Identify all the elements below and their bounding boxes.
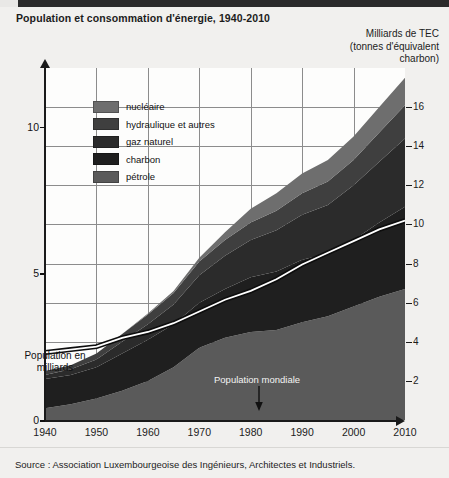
legend-item-label: charbon xyxy=(126,154,160,165)
legend-swatch xyxy=(93,171,119,183)
annotation-arrow-icon xyxy=(253,386,267,412)
x-axis-tick-label: 1990 xyxy=(282,426,322,438)
left-axis-tick-mark xyxy=(40,420,45,422)
right-axis-tick-mark xyxy=(406,224,412,225)
left-axis-tick-label: 0 xyxy=(17,414,39,426)
left-axis-tick-mark xyxy=(40,273,45,275)
legend-item-label: nucléaire xyxy=(126,101,165,112)
x-axis-tick-label: 1980 xyxy=(231,426,271,438)
left-axis-title-line2: milliards xyxy=(12,362,98,374)
chart: 246810121416 0510 1940195019601970198019… xyxy=(0,0,449,478)
right-axis-tick-mark xyxy=(406,185,412,186)
right-axis-tick-mark xyxy=(406,264,412,265)
legend-item-label: hydraulique et autres xyxy=(126,119,215,130)
x-axis-arrow-icon xyxy=(396,416,405,426)
legend: nucléairehydraulique et autresgaz nature… xyxy=(93,99,215,187)
left-axis-tick-label: 10 xyxy=(17,121,39,133)
right-axis-tick-mark xyxy=(406,107,412,108)
legend-item: charbon xyxy=(93,152,215,167)
right-axis-tick-label: 12 xyxy=(413,179,433,190)
right-axis-tick-mark xyxy=(406,303,412,304)
right-axis-tick-label: 8 xyxy=(413,258,433,269)
x-axis-tick-label: 1950 xyxy=(76,426,116,438)
y-axis-arrow-icon xyxy=(40,59,50,68)
right-axis-tick-text: 8 xyxy=(413,258,419,269)
legend-item: hydraulique et autres xyxy=(93,117,215,132)
right-axis-tick-label: 14 xyxy=(413,140,433,151)
left-axis-tick-text: 5 xyxy=(33,267,39,279)
right-axis-tick-text: 4 xyxy=(413,336,419,347)
right-axis-tick-label: 4 xyxy=(413,336,433,347)
left-axis-title-line1: Population en xyxy=(12,350,98,362)
left-axis-tick-label: 5 xyxy=(17,267,39,279)
legend-swatch xyxy=(93,118,119,130)
right-axis-tick-text: 6 xyxy=(413,297,419,308)
left-axis-title: Population en milliards xyxy=(12,350,98,373)
legend-swatch xyxy=(93,136,119,148)
legend-item: pétrole xyxy=(93,169,215,184)
right-axis-tick-text: 10 xyxy=(413,218,424,229)
right-axis-tick-label: 10 xyxy=(413,218,433,229)
right-axis-tick-mark xyxy=(406,342,412,343)
legend-item-label: gaz naturel xyxy=(126,136,173,147)
right-axis-tick-mark xyxy=(406,381,412,382)
right-axis-tick-label: 2 xyxy=(413,375,433,386)
population-line-annotation: Population mondiale xyxy=(214,374,300,385)
x-axis-tick-label: 1960 xyxy=(128,426,168,438)
right-axis-tick-label: 16 xyxy=(413,101,433,112)
x-axis-tick-label: 2000 xyxy=(334,426,374,438)
legend-item-label: pétrole xyxy=(126,171,155,182)
figure-page: Population et consommation d'énergie, 19… xyxy=(0,0,449,478)
right-axis-tick-text: 16 xyxy=(413,101,424,112)
right-axis-tick-text: 14 xyxy=(413,140,424,151)
right-axis-tick-text: 12 xyxy=(413,179,424,190)
x-axis-tick-label: 1940 xyxy=(25,426,65,438)
source-note: Source : Association Luxembourgeoise des… xyxy=(15,459,355,470)
x-axis-tick-label: 2010 xyxy=(385,426,425,438)
footer-divider xyxy=(0,447,449,448)
legend-item: gaz naturel xyxy=(93,134,215,149)
legend-swatch xyxy=(93,101,119,113)
left-axis-tick-mark xyxy=(40,127,45,129)
legend-item: nucléaire xyxy=(93,99,215,114)
x-axis-line xyxy=(44,420,399,422)
legend-swatch xyxy=(93,153,119,165)
left-axis-tick-text: 10 xyxy=(27,121,39,133)
left-axis-tick-text: 0 xyxy=(33,414,39,426)
right-axis-tick-text: 2 xyxy=(413,375,419,386)
x-axis-tick-label: 1970 xyxy=(179,426,219,438)
right-axis-tick-mark xyxy=(406,146,412,147)
right-axis-tick-label: 6 xyxy=(413,297,433,308)
